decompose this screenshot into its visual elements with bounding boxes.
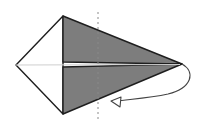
gray-lower-flap: [63, 64, 182, 114]
center-crease-line: [16, 65, 180, 66]
origami-diagram: [0, 0, 201, 129]
gray-upper-flap: [63, 16, 182, 64]
arrow-head-icon: [111, 97, 121, 107]
